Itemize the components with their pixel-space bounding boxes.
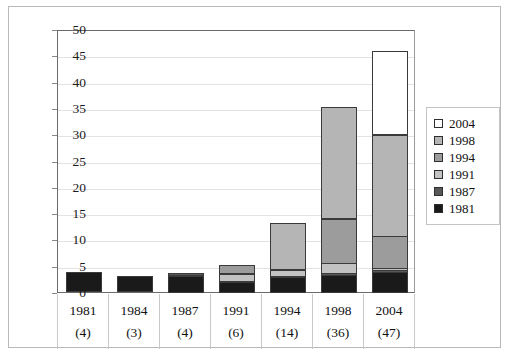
bar-segment-1998 <box>372 135 408 237</box>
bar-1984 <box>117 276 153 292</box>
legend-swatch-icon <box>434 187 443 196</box>
bar-segment-1981 <box>117 276 153 292</box>
y-axis-tick-mark <box>52 293 57 294</box>
y-axis-tick-label: 30 <box>56 128 86 142</box>
x-axis-category-label: 1991 <box>223 304 250 318</box>
x-axis-category-label: 1998 <box>325 304 352 318</box>
bar-segment-2004 <box>372 51 408 134</box>
y-axis-tick-mark <box>52 109 57 110</box>
y-axis-tick-mark <box>52 30 57 31</box>
x-axis-category-count: (14) <box>276 326 299 340</box>
category-cell-2004: 2004(47) <box>364 294 415 349</box>
y-axis-tick-label: 35 <box>56 102 86 116</box>
y-axis-tick-label: 40 <box>56 76 86 90</box>
legend-item-label: 1998 <box>449 134 475 147</box>
y-axis-tick-label: 5 <box>56 260 86 274</box>
legend-item-1987[interactable]: 1987 <box>434 183 493 200</box>
category-cell-1981: 1981(4) <box>57 294 109 349</box>
y-axis-tick-mark <box>52 135 57 136</box>
bar-segment-1981 <box>219 282 255 293</box>
bar-segment-1981 <box>372 272 408 293</box>
bar-segment-1981 <box>270 277 306 293</box>
category-cell-1991: 1991(6) <box>211 294 262 349</box>
bar-segment-1981 <box>321 275 357 293</box>
category-cell-1994: 1994(14) <box>262 294 313 349</box>
y-axis-tick-mark <box>52 83 57 84</box>
gridline <box>58 136 414 137</box>
x-axis-category-label: 2004 <box>376 304 403 318</box>
y-axis-tick-mark <box>52 56 57 57</box>
x-axis-category-count: (3) <box>126 326 142 340</box>
y-axis-tick-mark <box>52 267 57 268</box>
gridline <box>58 189 414 190</box>
gridline <box>58 84 414 85</box>
y-axis-tick-mark <box>52 240 57 241</box>
legend-swatch-icon <box>434 204 443 213</box>
chart-legend: 200419981994199119871981 <box>426 107 500 225</box>
category-cell-1987: 1987(4) <box>160 294 211 349</box>
legend-item-2004[interactable]: 2004 <box>434 115 493 132</box>
bar-1987 <box>168 273 204 292</box>
bar-1998 <box>321 107 357 292</box>
x-axis-category-count: (6) <box>228 326 244 340</box>
legend-swatch-icon <box>434 153 443 162</box>
x-axis-category-count: (36) <box>327 326 350 340</box>
gridline <box>58 163 414 164</box>
y-axis-tick-label: 50 <box>56 23 86 37</box>
legend-item-1998[interactable]: 1998 <box>434 132 493 149</box>
legend-item-label: 1994 <box>449 151 475 164</box>
chart-frame: 1981(4)1984(3)1987(4)1991(6)1994(14)1998… <box>8 6 501 348</box>
bar-segment-1998 <box>270 223 306 270</box>
bar-segment-1998 <box>321 107 357 219</box>
legend-item-1981[interactable]: 1981 <box>434 200 493 217</box>
bar-segment-1981 <box>168 276 204 293</box>
legend-item-label: 1981 <box>449 202 475 215</box>
category-cell-1984: 1984(3) <box>109 294 160 349</box>
plot-area <box>57 30 415 293</box>
x-axis-category-label: 1984 <box>121 304 148 318</box>
bar-1991 <box>219 265 255 292</box>
y-axis-tick-mark <box>52 188 57 189</box>
x-axis-category-label: 1981 <box>70 304 97 318</box>
y-axis-tick-label: 10 <box>56 234 86 248</box>
legend-swatch-icon <box>434 119 443 128</box>
legend-item-1991[interactable]: 1991 <box>434 166 493 183</box>
legend-item-label: 1991 <box>449 168 475 181</box>
y-axis-tick-mark <box>52 214 57 215</box>
bar-segment-1994 <box>219 265 255 274</box>
legend-swatch-icon <box>434 136 443 145</box>
category-label-table: 1981(4)1984(3)1987(4)1991(6)1994(14)1998… <box>57 294 415 349</box>
x-axis-category-count: (47) <box>378 326 401 340</box>
x-axis-category-label: 1994 <box>274 304 301 318</box>
legend-item-label: 1987 <box>449 185 475 198</box>
y-axis-tick-label: 25 <box>56 155 86 169</box>
gridline <box>58 57 414 58</box>
y-axis-tick-label: 15 <box>56 207 86 221</box>
bar-segment-1994 <box>321 219 357 264</box>
y-axis-tick-label: 0 <box>56 286 86 300</box>
gridline <box>58 215 414 216</box>
bar-segment-1994 <box>372 236 408 269</box>
legend-swatch-icon <box>434 170 443 179</box>
legend-item-1994[interactable]: 1994 <box>434 149 493 166</box>
category-cell-1998: 1998(36) <box>313 294 364 349</box>
legend-item-label: 2004 <box>449 117 475 130</box>
x-axis-category-label: 1987 <box>172 304 199 318</box>
y-axis-tick-label: 45 <box>56 50 86 64</box>
bar-1994 <box>270 223 306 292</box>
x-axis-category-count: (4) <box>177 326 193 340</box>
y-axis-tick-label: 20 <box>56 181 86 195</box>
gridline <box>58 110 414 111</box>
x-axis-category-count: (4) <box>75 326 91 340</box>
y-axis-tick-mark <box>52 162 57 163</box>
bar-2004 <box>372 51 408 292</box>
gridline <box>58 241 414 242</box>
